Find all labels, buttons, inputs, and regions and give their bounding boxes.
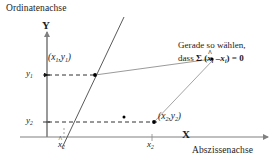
tick-label-y2: y2 <box>26 116 33 125</box>
annotation-close-equals: ) = <box>227 53 240 63</box>
annotation-dass-text: dass <box>178 53 196 63</box>
hat-accent-icon: ^ <box>58 136 62 144</box>
tick-label-xhat2: ^x2 <box>58 140 65 149</box>
tick-label-x2-sub: 2 <box>151 144 154 150</box>
point-label-1-close: ) <box>68 52 71 62</box>
tick-label-x2: x2 <box>147 140 154 149</box>
point-label-2: (x2,y2) <box>158 112 181 122</box>
point-label-1: (x1,y1) <box>48 53 71 63</box>
regression-diagram: Ordinatenachse Y X Abszissenachse y1 y2 … <box>0 0 278 164</box>
regression-line <box>62 17 124 148</box>
point-label-1-x-sub: 1 <box>55 57 58 63</box>
x-axis-name-label: Abszissenachse <box>192 146 253 156</box>
point-label-2-x-sub: 2 <box>165 116 168 122</box>
point-label-1-y-sub: 1 <box>65 57 68 63</box>
tick-label-y2-sub: 2 <box>30 120 33 126</box>
annotation-x-sub: i <box>225 58 227 64</box>
tick-label-y1: y1 <box>26 69 33 78</box>
point-marker-2 <box>152 120 156 124</box>
point-marker-1 <box>93 73 97 77</box>
hat-accent-icon-annotation: ^ <box>208 50 213 58</box>
annotation-line-2: dass Σ (^xi –xi) = 0 <box>178 54 244 63</box>
point-label-2-close: ) <box>178 111 181 121</box>
y-axis-letter-label: Y <box>42 20 50 31</box>
annotation-zero: 0 <box>239 53 244 63</box>
x-axis-letter-label: X <box>182 129 190 140</box>
point-marker-4 <box>123 116 126 119</box>
tick-label-xhat2-sub: 2 <box>62 144 65 150</box>
y-axis-name-label: Ordinatenachse <box>6 4 66 14</box>
point-label-2-y-sub: 2 <box>175 116 178 122</box>
tick-label-y1-sub: 1 <box>30 73 33 79</box>
